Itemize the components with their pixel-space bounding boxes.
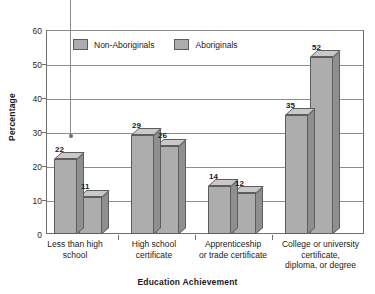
bar-group-less-than-high-school [54,30,126,234]
x-category-line: College or university [268,239,373,250]
value-label-aboriginals-less-than-high-school: 11 [81,182,89,191]
bar-group-high-school-certificate [131,30,203,234]
bar-face [285,115,308,234]
y-tick-label-60: 60 [18,26,42,36]
legend: Non-Aboriginals Aboriginals [73,39,238,50]
y-axis-title: Percentage [7,72,17,162]
bar-side [102,190,109,234]
legend-item-non-aboriginals[interactable]: Non-Aboriginals [73,39,154,50]
bar-side [154,129,161,234]
bar-face [54,159,77,234]
bar-face [131,135,154,234]
bars-layer [46,30,364,234]
bar-side [231,180,238,234]
bar-group-college-or-university [285,30,357,234]
value-label-aboriginals-college: 52 [312,43,321,52]
annotation-pointer-arrowhead-icon [69,134,73,138]
bar-side [256,187,263,234]
bar-side [77,153,84,234]
y-tick-label-40: 40 [18,94,42,104]
value-label-aboriginals-high-school-certificate: 26 [158,131,167,140]
bar-side [179,139,186,234]
legend-item-aboriginals[interactable]: Aboriginals [174,39,237,50]
y-tick-label-30: 30 [18,128,42,138]
x-axis-title: Education Achievement [0,277,375,287]
x-category-label-college-or-university: College or university certificate, diplo… [268,239,373,271]
x-category-line: diploma, or degree [268,260,373,271]
value-label-non-aboriginals-apprenticeship: 14 [209,172,218,181]
value-label-non-aboriginals-less-than-high-school: 22 [55,145,64,154]
bar-side [308,109,315,234]
value-label-aboriginals-apprenticeship: 12 [235,179,244,188]
cropped-header-remnant [55,0,225,3]
value-label-non-aboriginals-high-school-certificate: 29 [132,121,141,130]
bar-side [333,51,340,234]
legend-swatch-icon [174,39,189,50]
bar-group-apprenticeship-or-trade-certificate [208,30,280,234]
legend-label: Aboriginals [195,40,237,50]
legend-swatch-icon [73,39,88,50]
legend-label: Non-Aboriginals [94,40,154,50]
bar-chart: Percentage 60 50 40 30 20 10 0 [0,0,375,294]
y-tick-label-50: 50 [18,60,42,70]
x-category-line: certificate, [268,250,373,261]
y-tick-label-20: 20 [18,162,42,172]
y-tick-label-10: 10 [18,196,42,206]
value-label-non-aboriginals-college: 35 [286,101,295,110]
annotation-pointer-line [70,0,71,136]
bar-face [208,186,231,234]
